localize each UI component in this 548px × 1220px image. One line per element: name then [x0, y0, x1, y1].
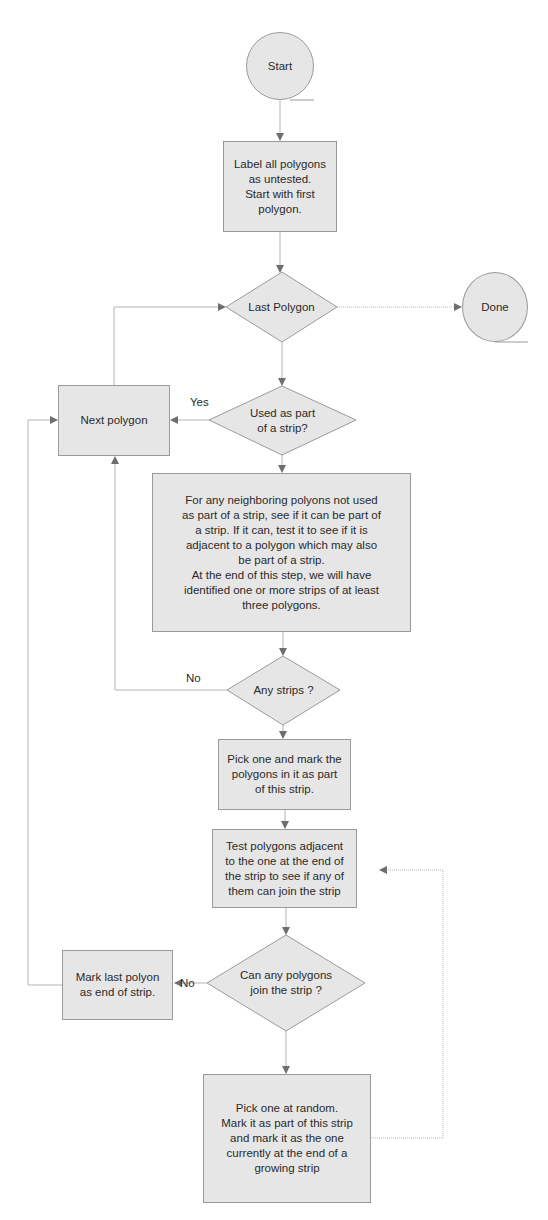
any-strips-node: Any strips ?	[227, 656, 340, 725]
start-label: Start	[268, 59, 292, 74]
label-all-text: Label all polygons as untested. Start wi…	[234, 157, 326, 217]
yes-label: Yes	[190, 396, 209, 408]
label-all-node: Label all polygons as untested. Start wi…	[223, 141, 337, 232]
for-any-neighboring-text: For any neighboring polyons not used as …	[182, 493, 381, 613]
can-any-join-text: Can any polygons join the strip ?	[240, 968, 332, 998]
edge-next-to-last	[114, 307, 225, 385]
mark-last-text: Mark last polyon as end of strip.	[76, 970, 160, 1000]
used-as-part-text: Used as part of a strip?	[250, 406, 315, 436]
any-strips-text: Any strips ?	[253, 683, 313, 698]
done-label: Done	[481, 300, 509, 315]
last-polygon-node: Last Polygon	[226, 272, 337, 342]
next-polygon-node: Next polygon	[58, 385, 170, 456]
edge-mark-to-next	[28, 420, 62, 985]
pick-random-text: Pick one at random. Mark it as part of t…	[221, 1101, 353, 1176]
test-adjacent-text: Test polygons adjacent to the one at the…	[225, 839, 344, 899]
next-polygon-text: Next polygon	[80, 413, 147, 428]
no-any-strips-label: No	[186, 672, 201, 684]
edge-random-to-test	[371, 870, 443, 1138]
pick-random-node: Pick one at random. Mark it as part of t…	[203, 1074, 371, 1203]
last-polygon-text: Last Polygon	[248, 300, 315, 315]
pick-one-mark-text: Pick one and mark the polygons in it as …	[227, 752, 341, 797]
used-as-part-node: Used as part of a strip?	[209, 386, 356, 455]
test-adjacent-node: Test polygons adjacent to the one at the…	[212, 829, 357, 908]
pick-one-mark-node: Pick one and mark the polygons in it as …	[218, 739, 351, 810]
mark-last-node: Mark last polyon as end of strip.	[62, 950, 173, 1020]
can-any-join-node: Can any polygons join the strip ?	[207, 935, 365, 1031]
for-any-neighboring-node: For any neighboring polyons not used as …	[152, 473, 411, 632]
no-can-join-label: No	[180, 977, 195, 989]
done-node: Done	[462, 272, 528, 342]
start-node: Start	[246, 32, 314, 100]
